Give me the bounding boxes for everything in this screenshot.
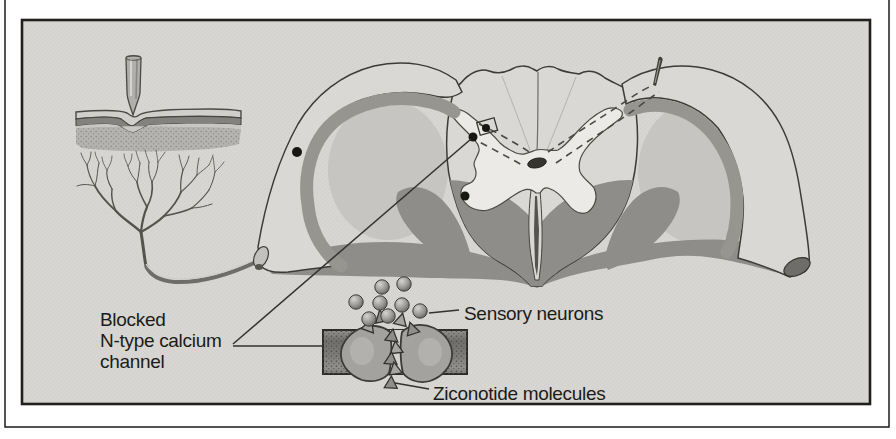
neurotransmitter-sphere [362, 312, 376, 326]
left-lobe-highlight [350, 337, 374, 365]
ziconotide-molecules-label: Ziconotide molecules [433, 383, 605, 404]
blocked-channel-label-line2: N-type calcium [100, 330, 221, 351]
neurotransmitter-sphere [381, 309, 395, 323]
neurotransmitter-sphere [413, 304, 427, 318]
subcutaneous-layer [76, 126, 241, 151]
neurotransmitter-sphere [395, 298, 409, 312]
neuron-soma-dot [482, 124, 490, 132]
right-lobe-highlight [418, 338, 442, 366]
neurotransmitter-sphere [349, 295, 363, 309]
neurotransmitter-sphere [373, 296, 387, 310]
neurotransmitter-sphere [375, 280, 389, 294]
ganglion-soma-dot [292, 147, 302, 157]
neurotransmitter-sphere [397, 277, 411, 291]
sensory-neurons-label: Sensory neurons [464, 303, 603, 324]
blocked-channel-label-line1: Blocked [100, 309, 166, 330]
figure-canvas: Blocked N-type calcium channel Sensory n… [0, 0, 896, 439]
neuron-soma-dot [461, 192, 470, 201]
left-nerve-cut-shadow [255, 264, 263, 270]
blocked-channel-label-line3: channel [100, 351, 164, 372]
